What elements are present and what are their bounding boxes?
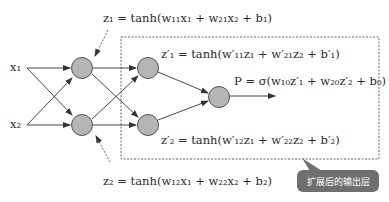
output-node [209,87,230,108]
z2-equation: z₂ = tanh(w₁₂x₁ + w₂₂x₂ + b₂) [103,176,272,188]
input-edges [27,68,72,125]
hidden2-node-2 [138,115,159,136]
z2-pointer [96,136,110,162]
output-P-equation: P = σ(w₁₀z′₁ + w₂₀z′₂ + b₀) [234,76,386,88]
expanded-output-layer-callout: 扩展后的输出层 [297,170,379,192]
input-x1-label: x₁ [10,62,21,74]
z1-equation: z₁ = tanh(w₁₁x₁ + w₂₁x₂ + b₁) [103,13,272,25]
hidden1-node-2 [72,115,93,136]
input-x2-label: x₂ [10,119,21,131]
z1-prime-equation: z′₁ = tanh(w′₁₁z₁ + w′₂₁z₂ + b′₁) [161,49,340,61]
nodes [72,58,230,136]
z1-pointer [95,30,108,56]
hidden-edges [92,68,138,125]
hidden2-node-1 [138,58,159,79]
hidden1-node-1 [72,58,93,79]
z2-prime-equation: z′₂ = tanh(w′₁₂z₁ + w′₂₂z₂ + b′₂) [161,135,340,147]
